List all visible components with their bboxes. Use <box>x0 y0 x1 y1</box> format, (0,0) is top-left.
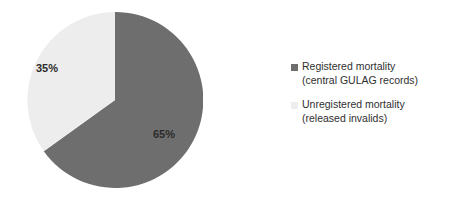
legend-label-line-2: (released invalids) <box>302 112 405 126</box>
pie-slice-value-label-unregistered: 35% <box>36 62 58 74</box>
legend-label-line-2: (central GULAG records) <box>302 74 418 88</box>
legend-label-line-1: Registered mortality <box>302 60 418 74</box>
legend-item-registered-mortality[interactable]: Registered mortality (central GULAG reco… <box>291 60 454 87</box>
legend-label-line-1: Unregistered mortality <box>302 98 405 112</box>
chart-legend: Registered mortality (central GULAG reco… <box>291 60 454 136</box>
square-marker-icon-light <box>291 102 298 109</box>
legend-label-unregistered-mortality: Unregistered mortality (released invalid… <box>302 98 405 125</box>
pie-chart-figure: 35% 65% Registered mortality (central GU… <box>0 0 454 201</box>
pie-chart-graphic: 35% 65% <box>27 12 203 188</box>
pie-slice-value-label-registered: 65% <box>153 128 175 140</box>
square-marker-icon-dark <box>291 64 298 71</box>
legend-label-registered-mortality: Registered mortality (central GULAG reco… <box>302 60 418 87</box>
legend-item-unregistered-mortality[interactable]: Unregistered mortality (released invalid… <box>291 98 454 125</box>
pie-svg <box>27 12 203 188</box>
